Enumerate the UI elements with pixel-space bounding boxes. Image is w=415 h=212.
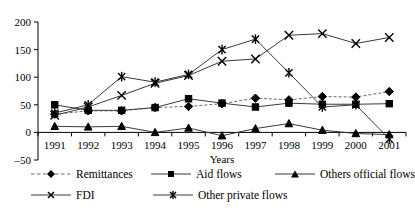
y-tick-label: 50: [20, 99, 32, 111]
data-point-diamond: [184, 102, 192, 110]
data-point-asterisk: [252, 34, 259, 44]
legend-row-2: FDI Other private flows: [0, 184, 415, 205]
legend-item-remittances[interactable]: Remittances: [30, 167, 150, 181]
legend-item-fdi[interactable]: FDI: [30, 188, 152, 202]
data-point-x: [352, 39, 360, 47]
x-tick-label: 1996: [211, 139, 234, 151]
y-tick-label: 150: [15, 44, 32, 56]
x-tick-label: 2000: [345, 139, 368, 151]
x-tick-label: 1991: [44, 139, 66, 151]
data-point-square: [52, 102, 58, 108]
chart-svg: –50050100150200 199119921993199419951996…: [0, 0, 415, 165]
legend-symbol-x-solid: [30, 188, 72, 202]
data-point-diamond: [251, 94, 259, 102]
legend-symbol-diamond-dashed: [30, 167, 72, 181]
data-point-square: [286, 100, 292, 106]
legend-item-others-official-flows[interactable]: Others official flows: [274, 167, 415, 181]
legend-label-other-private-flows: Other private flows: [198, 188, 287, 202]
x-tick-label: 1994: [144, 139, 167, 151]
data-point-x: [385, 33, 393, 41]
data-point-square: [185, 96, 191, 102]
data-point-diamond: [318, 92, 326, 100]
x-tick-label: 1992: [77, 139, 99, 151]
data-point-asterisk: [218, 45, 225, 55]
x-tick-label: 1998: [278, 139, 301, 151]
legend-label-others-official-flows: Others official flows: [320, 167, 415, 181]
x-tick-label: 1999: [311, 139, 334, 151]
data-point-square: [118, 107, 124, 113]
data-point-diamond: [385, 87, 393, 95]
legend-item-other-private-flows[interactable]: Other private flows: [152, 188, 287, 202]
series-others-official-flows: [51, 120, 393, 139]
legend-item-aid-flows[interactable]: Aid flows: [150, 167, 274, 181]
legend-symbol-asterisk-solid: [152, 188, 194, 202]
data-point-x: [117, 91, 125, 99]
legend-symbol-triangle-solid: [274, 167, 316, 181]
line-chart: –50050100150200 199119921993199419951996…: [0, 0, 415, 212]
series-group: [51, 29, 394, 143]
y-tick-label: 100: [15, 71, 32, 83]
legend-label-remittances: Remittances: [76, 167, 133, 181]
legend-symbol-square-solid: [150, 167, 192, 181]
legend-label-fdi: FDI: [76, 188, 95, 202]
series-aid-flows: [52, 96, 393, 114]
data-point-square: [152, 104, 158, 110]
series-other-private-flows: [51, 34, 393, 144]
plot-area: –50050100150200 199119921993199419951996…: [0, 0, 415, 165]
y-tick-label: 0: [26, 126, 32, 138]
data-point-triangle: [285, 120, 293, 127]
data-point-asterisk: [285, 68, 292, 78]
data-point-square: [386, 100, 392, 106]
data-point-square: [252, 104, 258, 110]
x-tick-label: 1997: [244, 139, 267, 151]
data-point-square: [219, 100, 225, 106]
chart-legend: Remittances Aid flows Others official fl…: [0, 163, 415, 212]
legend-row-1: Remittances Aid flows Others official fl…: [0, 163, 415, 184]
x-tick-label: 1995: [178, 139, 201, 151]
data-point-triangle: [185, 124, 193, 131]
x-tick-label: 1993: [111, 139, 134, 151]
y-axis-ticks: –50050100150200: [14, 16, 39, 165]
y-tick-label: 200: [15, 16, 32, 28]
legend-label-aid-flows: Aid flows: [196, 167, 242, 181]
